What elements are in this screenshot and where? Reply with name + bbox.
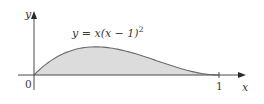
x-tick-label-1: 1 bbox=[216, 80, 223, 92]
plot-area: y x 0 1 y = x(x − 1)2 bbox=[0, 0, 264, 104]
y-axis-label: y bbox=[24, 8, 32, 21]
x-axis-label: x bbox=[242, 81, 249, 94]
x-axis-arrow-icon bbox=[238, 72, 246, 78]
y-axis-arrow-icon bbox=[31, 11, 37, 19]
origin-label: 0 bbox=[25, 78, 32, 90]
equation-main: y = x(x − 1) bbox=[71, 27, 139, 40]
equation-exponent: 2 bbox=[139, 25, 144, 34]
function-equation-label: y = x(x − 1)2 bbox=[71, 25, 144, 40]
